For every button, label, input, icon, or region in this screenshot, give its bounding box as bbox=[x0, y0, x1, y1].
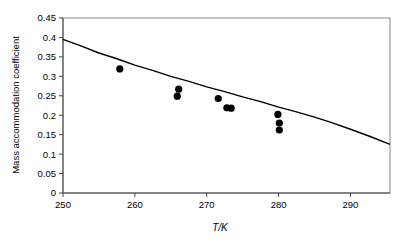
x-axis-title: T/K bbox=[212, 222, 229, 233]
x-tick-label: 290 bbox=[343, 199, 359, 210]
y-tick-label: 0.2 bbox=[43, 110, 56, 121]
fit-curve-path bbox=[63, 39, 390, 144]
y-axis-tick-labels: 00.050.10.150.20.250.30.350.40.45 bbox=[38, 12, 57, 198]
y-tick-label: 0.15 bbox=[38, 129, 57, 140]
y-tick-label: 0.25 bbox=[38, 90, 57, 101]
y-tick-label: 0.1 bbox=[43, 149, 56, 160]
data-point bbox=[276, 119, 283, 126]
data-point bbox=[276, 126, 283, 133]
x-tick-label: 260 bbox=[127, 199, 143, 210]
x-tick-label: 270 bbox=[199, 199, 215, 210]
data-point bbox=[116, 65, 123, 72]
scatter-plot: 250260270280290 00.050.10.150.20.250.30.… bbox=[0, 0, 401, 243]
y-axis-title: Mass accommodation coefficient bbox=[10, 36, 21, 174]
y-axis-ticks bbox=[59, 18, 63, 193]
fit-curve bbox=[63, 39, 390, 144]
y-tick-label: 0.45 bbox=[38, 12, 57, 23]
y-tick-label: 0.35 bbox=[38, 51, 57, 62]
data-point bbox=[215, 95, 222, 102]
data-point bbox=[174, 93, 181, 100]
y-tick-label: 0 bbox=[51, 187, 56, 198]
y-tick-label: 0.4 bbox=[43, 32, 56, 43]
data-point bbox=[274, 111, 281, 118]
x-tick-label: 250 bbox=[55, 199, 71, 210]
x-axis-tick-labels: 250260270280290 bbox=[55, 199, 358, 210]
data-point bbox=[228, 105, 235, 112]
y-tick-label: 0.3 bbox=[43, 71, 56, 82]
y-tick-label: 0.05 bbox=[38, 168, 57, 179]
x-tick-label: 280 bbox=[271, 199, 287, 210]
data-points bbox=[116, 65, 283, 133]
data-point bbox=[175, 86, 182, 93]
chart-figure: 250260270280290 00.050.10.150.20.250.30.… bbox=[0, 0, 401, 243]
x-axis-ticks bbox=[63, 193, 350, 197]
